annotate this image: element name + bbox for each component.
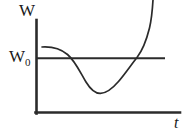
w-of-t-curve [42,0,153,93]
figure-container: W W0 t [0,0,193,133]
y-axis-label: W [19,2,35,19]
w0-label-subscript: 0 [25,56,31,68]
x-axis-label: t [174,115,178,131]
w0-axis-label: W0 [9,48,31,68]
w0-label-main: W [9,47,25,66]
axes-group [36,20,181,114]
